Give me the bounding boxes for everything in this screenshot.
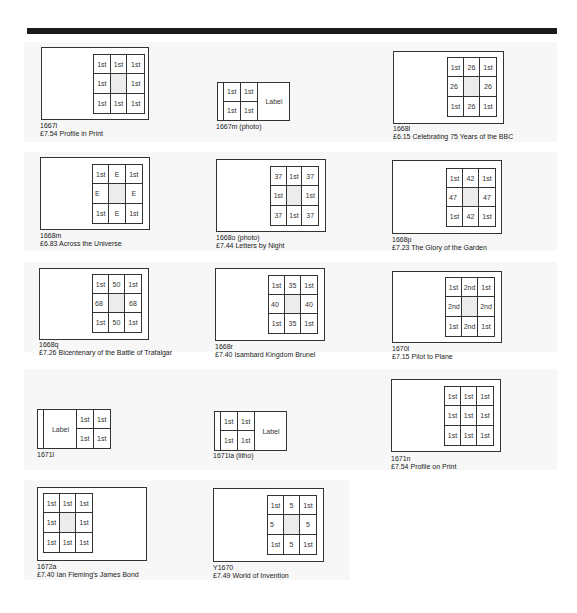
stamp-cell: 1st — [447, 207, 463, 226]
blank-stamp-cell — [287, 186, 303, 205]
blank-stamp-cell — [462, 297, 478, 316]
panel-description: £7.44 Letters by Night — [216, 242, 285, 250]
stamp-cell: 37 — [271, 167, 287, 186]
stamp-cell: 1st — [301, 276, 317, 295]
stamp-cell: 1st — [271, 186, 287, 205]
label-cell: Label — [257, 82, 290, 121]
stamp-cell: 1st — [478, 317, 494, 336]
panel-code: 1671la (litho) — [213, 452, 253, 460]
stamp-cell: 35 — [285, 276, 301, 295]
stamp-cell: 1st — [446, 278, 462, 297]
panel-code: 1670l — [392, 345, 409, 353]
panel-description: £6.83 Across the Universe — [40, 240, 122, 248]
stamp-cell: 1st — [93, 204, 109, 223]
blank-stamp-cell — [109, 294, 125, 313]
stamp-cell: 1st — [127, 55, 144, 74]
stamp-cell: 1st — [446, 317, 462, 336]
stamp-grid: 1st1st1st1st — [220, 411, 255, 451]
stamp-cell: 1st — [477, 387, 493, 406]
blank-stamp-cell — [60, 513, 76, 532]
panel-code: 1671l — [37, 451, 54, 459]
stamp-cell: 42 — [463, 169, 479, 188]
stamp-cell: 50 — [109, 313, 125, 332]
stamp-cell: 1st — [448, 58, 464, 77]
stamp-cell: 1st — [287, 206, 303, 225]
stamp-cell: 1st — [238, 431, 255, 450]
panel-code: 1671n — [391, 455, 410, 463]
panel-description: £6.15 Celebrating 75 Years of the BBC — [393, 133, 513, 141]
stamp-cell: 1st — [76, 513, 92, 532]
stamp-cell: 1st — [269, 276, 285, 295]
stamp-grid: 1stE1stEE1stE1st — [92, 164, 143, 224]
panel-code: 1668p — [392, 236, 411, 244]
stamp-cell: 35 — [285, 314, 301, 333]
blank-stamp-cell — [464, 77, 480, 96]
panel-code: 1668r — [215, 343, 233, 351]
stamp-cell: E — [109, 165, 125, 184]
stamp-grid: 1st2nd1st2nd2nd1st2nd1st — [445, 277, 495, 337]
stamp-cell: 26 — [464, 58, 480, 77]
panel-description: £7.23 The Glory of the Garden — [392, 244, 487, 252]
panel-code: Y1670 — [213, 564, 233, 572]
stamp-cell: 1st — [477, 406, 493, 425]
stamp-cell: E — [93, 184, 109, 203]
stamp-grid: 1st501st68681st501st — [92, 274, 142, 333]
stamp-cell: 5 — [284, 496, 300, 515]
blank-stamp-cell — [284, 515, 300, 534]
stamp-cell: E — [126, 184, 142, 203]
panel-description: £7.54 Profile on Print — [391, 463, 456, 471]
panel-description: £7.40 Ian Fleming's James Bond — [37, 571, 139, 579]
panel-code: 1668o (photo) — [216, 234, 260, 242]
stamp-cell: 2nd — [478, 297, 494, 316]
stamp-cell: 1st — [221, 412, 238, 431]
stamp-cell: 1st — [44, 494, 60, 513]
stamp-cell: 1st — [445, 387, 461, 406]
stamp-cell: 1st — [126, 165, 142, 184]
stamp-cell: 1st — [44, 513, 60, 532]
stamp-cell: 1st — [269, 314, 285, 333]
panel-code: 1668q — [39, 341, 58, 349]
stamp-cell: 1st — [125, 275, 141, 294]
stamp-cell: 1st — [94, 94, 111, 113]
stamp-cell: 1st — [44, 533, 60, 552]
panel-code: 1667l — [40, 122, 57, 130]
stamp-cell: 1st — [127, 94, 144, 113]
blank-stamp-cell — [111, 74, 128, 93]
stamp-cell: 1st — [111, 55, 128, 74]
stamp-cell: 1st — [445, 406, 461, 425]
stamp-cell: 1st — [94, 429, 111, 448]
stamp-cell: 1st — [241, 102, 258, 121]
stamp-grid: 1st421st47471st421st — [446, 168, 496, 227]
stamp-grid: 1st1st1st1st1st1st1st1st1st — [444, 386, 494, 446]
stamp-cell: 1st — [77, 410, 94, 429]
stamp-grid: 1st51st551st51st — [267, 495, 317, 555]
stamp-cell: 40 — [269, 295, 285, 314]
stamp-cell: 1st — [461, 426, 477, 445]
stamp-cell: 47 — [447, 188, 463, 207]
label-cell: Label — [254, 411, 287, 451]
panel-code: 1668m — [40, 232, 61, 240]
stamp-cell: 1st — [287, 167, 303, 186]
stamp-cell: 50 — [109, 275, 125, 294]
stamp-cell: 5 — [300, 515, 316, 534]
stamp-grid: 1st351st40401st351st — [268, 275, 318, 334]
blank-stamp-cell — [109, 184, 125, 203]
panel-description: £7.15 Pilot to Plane — [392, 353, 453, 361]
stamp-cell: 1st — [60, 494, 76, 513]
stamp-grid: 1st261st26261st261st — [447, 57, 497, 117]
stamp-cell: 5 — [268, 515, 284, 534]
stamp-cell: 1st — [77, 429, 94, 448]
stamp-cell: 1st — [268, 496, 284, 515]
stamp-cell: 1st — [302, 186, 318, 205]
blank-stamp-cell — [463, 188, 479, 207]
label-cell: Label — [44, 409, 77, 449]
stamp-cell: 1st — [301, 314, 317, 333]
header-rule — [27, 28, 557, 34]
stamp-cell: 1st — [224, 102, 241, 121]
stamp-grid: 1st1st1st1st1st1st1st1st — [93, 54, 145, 114]
stamp-grid: 1st1st1st1st — [76, 409, 111, 449]
panel-description: £7.49 World of Invention — [213, 572, 289, 580]
stamp-cell: 1st — [94, 410, 111, 429]
stamp-cell: 1st — [479, 169, 495, 188]
stamp-cell: 1st — [479, 207, 495, 226]
